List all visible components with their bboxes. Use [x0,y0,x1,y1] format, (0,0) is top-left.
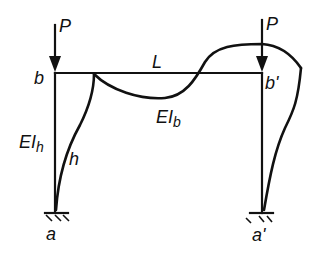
undeformed-frame [55,73,262,213]
beam-stiffness-label: EIb [156,107,181,130]
column-height-label: h [69,149,79,169]
fixed-support-right [246,213,273,223]
beam-length-label: L [152,52,162,72]
arrow-head-icon [49,56,61,72]
load-label-right: P [266,14,278,34]
fixed-support-left [45,213,69,221]
node-label-b-prime: b' [265,73,279,93]
left-column-deflection [56,74,94,210]
node-label-a-prime: a' [252,225,266,245]
arrow-head-icon [256,56,268,72]
hatch-icon [55,215,61,221]
hatch-icon [63,215,69,221]
node-label-b: b [34,68,44,88]
load-label-left: P [59,16,71,36]
hatch-icon [267,216,272,222]
hatch-icon [46,215,52,221]
column-stiffness-label: EIh [19,132,44,155]
node-label-a: a [46,224,56,244]
hatch-icon [259,216,264,222]
hatch-icon [246,218,251,223]
portal-frame-diagram: P P b b' a a' L EIb EIh h [0,0,318,254]
